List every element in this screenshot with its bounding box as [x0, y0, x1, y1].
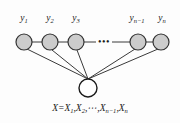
observation-edge-yn-1-X [88, 49, 135, 79]
node-label-y2: y2 [46, 14, 53, 24]
node-y1[interactable] [16, 34, 32, 50]
chain-ellipsis: ••• [98, 37, 110, 47]
node-label-y1: y1 [20, 14, 27, 24]
node-label-y3-sub: 3 [76, 17, 79, 24]
node-yn[interactable] [153, 34, 169, 50]
equation-term-4-sub: n−1 [105, 107, 116, 114]
observation-edge-yn-X [88, 49, 158, 79]
equation-term-5-sub: n [125, 107, 128, 114]
node-label-yn-1: yn−1 [129, 14, 144, 24]
node-y2[interactable] [42, 34, 58, 50]
equation-term-2-sub: 2 [82, 107, 85, 114]
equation-term-1-sub: 1 [70, 107, 73, 114]
observation-edges [27, 49, 158, 79]
node-X-observed[interactable] [79, 79, 97, 97]
equation-term-ellipsis: ⋯ [87, 103, 97, 113]
node-yn-1[interactable] [130, 34, 146, 50]
diagram-canvas: ••• y1 y2 y3 yn−1 yn X=X1,X2,⋯,Xn−1,Xn [0, 0, 180, 123]
node-label-yn-sub: n [162, 17, 165, 24]
node-label-y1-sub: 1 [24, 17, 27, 24]
equation-definition-of-X: X=X1,X2,⋯,Xn−1,Xn [52, 104, 128, 114]
node-label-yn-1-sub: n−1 [134, 17, 145, 24]
node-label-y3: y3 [72, 14, 79, 24]
node-label-y2-sub: 2 [50, 17, 53, 24]
node-label-yn: yn [158, 14, 165, 24]
node-y3[interactable] [68, 34, 84, 50]
